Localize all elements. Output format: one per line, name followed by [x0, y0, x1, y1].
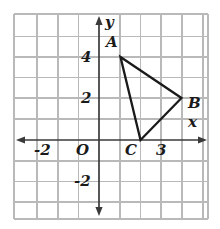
vertex-label-b: B	[188, 96, 201, 111]
x-tick-label-3: 3	[156, 143, 166, 158]
x-tick-label-neg2: -2	[34, 143, 51, 158]
coordinate-plane-figure: y x O 4 2 -2 -2 3 A B C	[0, 0, 220, 229]
vertex-label-a: A	[106, 35, 118, 50]
origin-label: O	[76, 143, 89, 158]
vertex-label-c: C	[125, 143, 137, 158]
y-axis-label: y	[105, 15, 114, 30]
x-axis-label: x	[188, 115, 197, 130]
y-tick-label-4: 4	[81, 50, 91, 65]
y-tick-label-neg2: -2	[74, 174, 91, 189]
y-tick-label-2: 2	[81, 91, 91, 106]
